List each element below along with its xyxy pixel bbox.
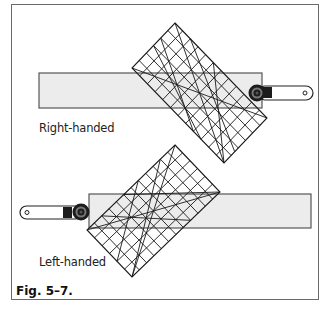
ruler-grid-bottom xyxy=(87,145,220,277)
right-handed-panel xyxy=(39,23,313,163)
diagram-canvas xyxy=(0,0,331,318)
figure-caption: Fig. 5–7. xyxy=(16,284,73,298)
left-handed-label: Left-handed xyxy=(39,255,106,269)
right-handed-label: Right-handed xyxy=(39,121,114,135)
rotary-cutter-bottom xyxy=(20,204,90,221)
rotary-cutter-top xyxy=(249,85,314,102)
